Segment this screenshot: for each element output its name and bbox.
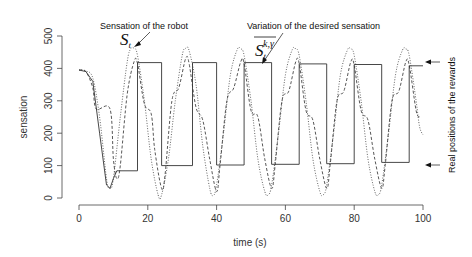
y-tick-label: 300 — [43, 92, 54, 109]
annotation-robot-sensation: Sensation of the robot — [100, 21, 189, 31]
y-tick-label: 500 — [43, 27, 54, 44]
plot-series — [79, 47, 423, 199]
series-line-dotted — [79, 47, 423, 199]
annotation-desired-sensation: Variation of the desired sensation — [247, 21, 380, 31]
y-tick-label: 400 — [43, 60, 54, 77]
x-tick-label: 0 — [76, 213, 82, 224]
x-tick-label: 80 — [349, 213, 361, 224]
x-axis: 020406080100 — [76, 205, 432, 224]
x-tick-label: 20 — [142, 213, 154, 224]
x-tick-label: 40 — [211, 213, 223, 224]
x-tick-label: 60 — [280, 213, 292, 224]
y-axis-title: sensation — [18, 96, 29, 139]
x-tick-label: 100 — [415, 213, 432, 224]
annotation-reward-positions: Real positions of the rewards — [447, 56, 457, 173]
series-line-solid-step — [79, 63, 423, 189]
y-tick-label: 200 — [43, 124, 54, 141]
arrow-head-icon — [425, 60, 431, 65]
y-axis: 0100200300400500 — [43, 27, 62, 201]
x-axis-title: time (s) — [233, 237, 266, 248]
series-line-dashed — [79, 56, 420, 191]
arrow-head-icon — [425, 163, 431, 168]
sensation-chart: 0100200300400500 020406080100 sensation … — [0, 0, 472, 257]
symbol-s-t: St — [120, 30, 132, 50]
y-tick-label: 0 — [43, 195, 54, 201]
y-tick-label: 100 — [43, 157, 54, 174]
